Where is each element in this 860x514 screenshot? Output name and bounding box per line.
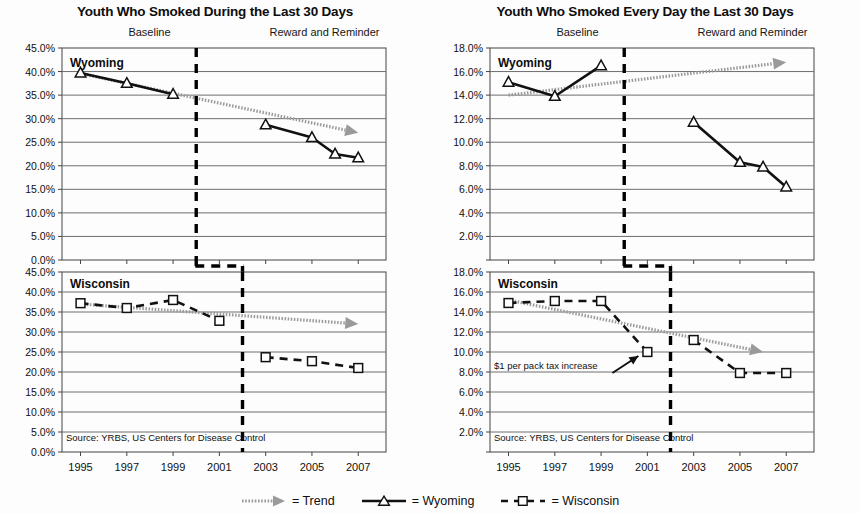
y-tick-label: 35.0% [0,306,55,318]
data-point-marker-square [308,357,317,366]
y-tick-label: 20.0% [0,366,55,378]
chart-left-canvas [0,0,430,480]
chart-left: Youth Who Smoked During the Last 30 Days… [0,0,430,480]
x-tick-label: 1999 [161,461,185,473]
y-tick-label: 10.0% [430,346,483,358]
legend-label-wisconsin: = Wisconsin [551,494,619,508]
chart-right-canvas [430,0,860,480]
y-tick-label: 5.0% [0,230,55,242]
y-tick-label: 14.0% [430,89,483,101]
x-tick-label: 2003 [253,461,277,473]
data-point-marker-square [215,316,224,325]
y-tick-label: 12.0% [430,113,483,125]
chart-right-top-state-label: Wyoming [498,56,552,70]
y-tick-label: 14.0% [430,306,483,318]
data-point-marker-square [689,336,698,345]
y-tick-label: 18.0% [430,42,483,54]
y-tick-label: 10.0% [0,207,55,219]
legend-label-trend: = Trend [292,494,335,508]
data-point-marker-triangle [260,119,271,129]
chart-left-source-note: Source: YRBS, US Centers for Disease Con… [66,432,265,443]
y-tick-label: 8.0% [430,366,483,378]
y-tick-label: 45.0% [0,266,55,278]
annotation-arrowhead [628,356,638,365]
data-point-marker-square [76,299,85,308]
y-tick-label: 35.0% [0,89,55,101]
data-point-marker-triangle [688,117,699,127]
y-tick-label: 30.0% [0,113,55,125]
x-tick-label: 2001 [635,461,659,473]
y-tick-label: 2.0% [430,230,483,242]
y-tick-label: 0.0% [0,254,55,266]
tax-increase-annotation: $1 per pack tax increase [494,360,598,371]
x-tick-label: 2005 [728,461,752,473]
y-tick-label: 10.0% [430,136,483,148]
legend-entry-wisconsin: = Wisconsin [500,494,619,508]
chart-right-source-note: Source: YRBS, US Centers for Disease Con… [494,432,693,443]
wisconsin-marker-icon [500,494,546,508]
data-point-marker-square [550,297,559,306]
y-tick-label: 8.0% [430,160,483,172]
y-tick-label: 0.0% [0,446,55,458]
data-point-marker-square [122,304,131,313]
x-tick-label: 1999 [589,461,613,473]
y-tick-label: 20.0% [0,160,55,172]
data-point-marker-square [736,369,745,378]
x-tick-label: 2005 [300,461,324,473]
data-point-marker-square [169,296,178,305]
data-point-marker-square [504,299,513,308]
y-tick-label: 30.0% [0,326,55,338]
y-tick-label: 15.0% [0,386,55,398]
legend-entry-trend: = Trend [241,494,335,508]
x-tick-label: 2007 [346,461,370,473]
y-tick-label: 16.0% [430,66,483,78]
trend-arrowhead [345,317,358,329]
data-point-marker-square [597,297,606,306]
y-tick-label: 45.0% [0,42,55,54]
y-tick-label: 5.0% [0,426,55,438]
figure-legend: = Trend = Wyoming = Wisconsin [0,494,860,508]
trend-line [81,304,346,323]
trend-arrowhead [749,344,763,356]
wyoming-marker-icon [361,494,407,508]
y-tick-label: 10.0% [0,406,55,418]
y-tick-label: 40.0% [0,286,55,298]
series-line-baseline [509,301,648,352]
legend-label-wyoming: = Wyoming [412,494,475,508]
data-point-marker-square [782,369,791,378]
figure-root: Youth Who Smoked During the Last 30 Days… [0,0,860,514]
x-tick-label: 2003 [681,461,705,473]
trend-icon [241,494,287,508]
y-tick-label: 4.0% [430,406,483,418]
chart-left-top-state-label: Wyoming [70,56,124,70]
y-tick-label: 40.0% [0,66,55,78]
y-tick-label: 6.0% [430,183,483,195]
series-line-baseline [81,300,220,321]
y-tick-label: 16.0% [430,286,483,298]
trend-arrowhead [344,124,358,136]
data-point-marker-square [354,364,363,373]
x-tick-label: 2001 [207,461,231,473]
y-tick-label: 2.0% [430,426,483,438]
y-tick-label: 25.0% [0,136,55,148]
trend-line [509,300,751,349]
x-tick-label: 1995 [496,461,520,473]
plot-frame [62,272,386,452]
x-tick-label: 2007 [774,461,798,473]
y-tick-label: 12.0% [430,326,483,338]
series-line-intervention [694,122,787,187]
data-point-marker-square [261,353,270,362]
y-tick-label: 6.0% [430,386,483,398]
x-tick-label: 1997 [543,461,567,473]
chart-right: Youth Who Smoked Every Day the Last 30 D… [430,0,860,480]
data-point-marker-triangle [503,77,514,87]
y-tick-label: 4.0% [430,207,483,219]
y-tick-label: 18.0% [430,266,483,278]
x-tick-label: 1997 [115,461,139,473]
x-tick-label: 1995 [68,461,92,473]
trend-arrowhead [773,58,787,70]
legend-entry-wyoming: = Wyoming [361,494,475,508]
data-point-marker-square [643,348,652,357]
y-tick-label: 25.0% [0,346,55,358]
chart-left-bottom-state-label: Wisconsin [70,277,130,291]
